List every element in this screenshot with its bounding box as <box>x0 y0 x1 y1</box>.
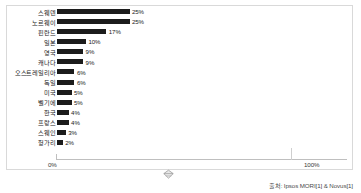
bar-row: 한국4% <box>0 107 347 117</box>
bar-row: 미국5% <box>0 87 347 97</box>
bar-track: 5% <box>57 97 347 107</box>
bar-category-label: 스웨덴 <box>0 9 56 16</box>
x-axis-label-start: 0% <box>48 161 57 168</box>
bar-category-label: 벨기에 <box>0 99 56 106</box>
bar-value-label: 6% <box>77 69 86 76</box>
bar <box>57 140 63 145</box>
bar-track: 3% <box>57 128 347 138</box>
bar <box>57 90 72 95</box>
bar-category-label: 프랑스 <box>0 119 56 126</box>
x-axis-label-end: 100% <box>304 161 319 168</box>
bar-value-label: 9% <box>86 48 95 55</box>
bar-value-label: 25% <box>132 8 144 15</box>
bar <box>57 59 83 64</box>
bar-row: 오스트레일리아6% <box>0 67 347 77</box>
bar <box>57 9 130 14</box>
bar-category-label: 독일 <box>0 79 56 86</box>
bar-row: 스웨덴25% <box>0 7 347 17</box>
bar-category-label: 헝가리 <box>0 139 56 146</box>
bar-track: 25% <box>57 7 347 17</box>
bar-value-label: 25% <box>132 18 144 25</box>
diamond-marker-icon <box>161 166 176 177</box>
bar-category-label: 미국 <box>0 89 56 96</box>
bar-track: 10% <box>57 37 347 47</box>
bar-value-label: 10% <box>89 38 101 45</box>
bar-value-label: 17% <box>109 28 121 35</box>
bar-row: 일본10% <box>0 37 347 47</box>
bar-value-label: 6% <box>77 79 86 86</box>
bar-row: 노르웨이25% <box>0 17 347 27</box>
bar-track: 9% <box>57 47 347 57</box>
bar-value-label: 5% <box>74 89 83 96</box>
bar-row: 프랑스4% <box>0 118 347 128</box>
bar-row: 독일6% <box>0 77 347 87</box>
bar-category-label: 일본 <box>0 39 56 46</box>
bar-category-label: 영국 <box>0 49 56 56</box>
bar-value-label: 9% <box>86 59 95 66</box>
bar <box>57 120 69 125</box>
bar-track: 5% <box>57 87 347 97</box>
bar <box>57 100 72 105</box>
x-axis-line <box>56 159 347 160</box>
bar-track: 6% <box>57 77 347 87</box>
bar-track: 17% <box>57 27 347 37</box>
bar-chart: 스웨덴25%노르웨이25%핀란드17%일본10%영국9%캐나다9%오스트레일리아… <box>0 0 361 193</box>
bar <box>57 130 66 135</box>
bar-category-label: 오스트레일리아 <box>0 69 56 76</box>
bar-category-label: 노르웨이 <box>0 19 56 26</box>
bar <box>57 69 74 74</box>
bar-value-label: 2% <box>65 139 74 146</box>
bar <box>57 39 86 44</box>
bar-category-label: 한국 <box>0 109 56 116</box>
bar-category-label: 캐나다 <box>0 59 56 66</box>
bar-track: 9% <box>57 57 347 67</box>
x-axis-tick-end <box>291 148 292 160</box>
bar-value-label: 3% <box>68 129 77 136</box>
bar-track: 6% <box>57 67 347 77</box>
bar <box>57 110 69 115</box>
x-axis-tick-start <box>56 154 57 160</box>
bar-category-label: 스웨인 <box>0 129 56 136</box>
bar-value-label: 4% <box>71 109 80 116</box>
bar-row: 벨기에5% <box>0 97 347 107</box>
bar-value-label: 4% <box>71 119 80 126</box>
bar-row: 헝가리2% <box>0 138 347 148</box>
bar-row: 스웨인3% <box>0 128 347 138</box>
bar-value-label: 5% <box>74 99 83 106</box>
bar <box>57 29 106 34</box>
bar <box>57 80 74 85</box>
bar-track: 2% <box>57 138 347 148</box>
bar <box>57 19 130 24</box>
bar-row: 영국9% <box>0 47 347 57</box>
bar-track: 4% <box>57 118 347 128</box>
bar-track: 25% <box>57 17 347 27</box>
bar-category-label: 핀란드 <box>0 29 56 36</box>
bar-track: 4% <box>57 107 347 117</box>
bar-row: 핀란드17% <box>0 27 347 37</box>
source-attribution: 출처: Ipsos MORI[1] & Novus[1] <box>269 181 353 190</box>
bar-rows: 스웨덴25%노르웨이25%핀란드17%일본10%영국9%캐나다9%오스트레일리아… <box>0 7 347 148</box>
bar <box>57 49 83 54</box>
bar-row: 캐나다9% <box>0 57 347 67</box>
